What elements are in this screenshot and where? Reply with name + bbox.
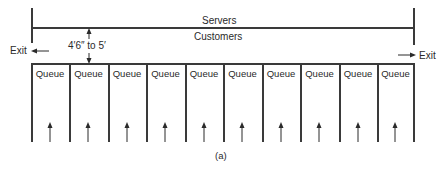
queue-label: Queue	[262, 68, 300, 79]
up-arrow-icon	[238, 122, 246, 142]
queue-label: Queue	[31, 68, 69, 79]
queue-label: Queue	[300, 68, 339, 79]
up-arrow-icon	[84, 122, 92, 142]
customers-label: Customers	[194, 31, 242, 42]
queue-label: Queue	[185, 68, 223, 79]
counter-left-end	[31, 8, 33, 43]
up-arrow-icon	[391, 122, 399, 142]
servers-label: Servers	[202, 15, 236, 26]
exit-right-label: Exit	[419, 50, 436, 61]
up-arrow-icon	[161, 122, 169, 142]
exit-left-arrow-icon	[31, 47, 51, 55]
queue-label: Queue	[223, 68, 262, 79]
queue-label: Queue	[69, 68, 108, 79]
up-arrow-icon	[46, 122, 54, 142]
queue-label: Queue	[108, 68, 146, 79]
queue-label: Queue	[377, 68, 414, 79]
up-arrow-icon	[315, 122, 323, 142]
exit-left-label: Exit	[10, 45, 27, 56]
up-arrow-icon	[200, 122, 208, 142]
figure-caption: (a)	[215, 150, 227, 161]
up-arrow-icon	[123, 122, 131, 142]
queue-label: Queue	[146, 68, 185, 79]
up-arrow-icon	[354, 122, 362, 142]
up-arrow-icon	[277, 122, 285, 142]
exit-right-arrow-icon	[398, 51, 418, 59]
queue-label: Queue	[339, 68, 377, 79]
dimension-label: 4′6″ to 5′	[68, 40, 106, 51]
